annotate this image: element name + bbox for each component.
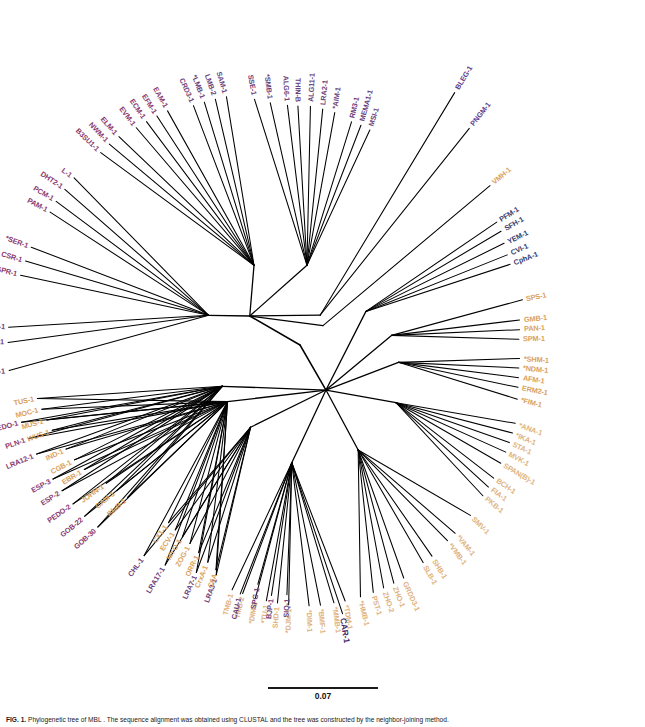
leaf-label-gmb1: GMB-1 — [523, 313, 547, 323]
leaf-label-alg61: ALG6-1 — [282, 76, 291, 102]
leaf-label-siq1: SIQ-1 — [282, 598, 290, 617]
scale-bar-line — [268, 687, 378, 689]
leaf-label-b3su21: B3SU2-1 — [0, 321, 5, 330]
leaf-label-alg111: ALG11-1 — [307, 73, 316, 102]
leaf-label-bjp1: BJP-1 — [265, 599, 275, 620]
leaf-label-spm1: SPM-1 — [523, 335, 545, 343]
leaf-label-bmf1: *BMF-1 — [317, 609, 326, 634]
scale-bar-value: 0.07 — [268, 691, 378, 701]
scale-bar: 0.07 — [268, 687, 378, 701]
leaf-label-thinb: THIN-B — [294, 78, 302, 102]
leaf-label-fez1: FEZ-1 — [0, 339, 4, 346]
leaf-label-pan1: PAN-1 — [523, 324, 544, 333]
leaf-label-am11: AM1-1 — [0, 367, 5, 376]
figure-caption-text: Phylogenetic tree of MBL . The sequence … — [26, 716, 449, 723]
phylogenetic-tree-figure: LRA3-1LRA7-1LRA17-1CHL-1GOB-30GOB-22PEDO… — [0, 0, 645, 727]
figure-caption: FIG. 1. Phylogenetic tree of MBL . The s… — [6, 716, 639, 727]
figure-number: FIG. 1. — [6, 716, 26, 723]
leaf-label-smb1: *SMB-1 — [263, 74, 273, 100]
leaf-label-shm1: *SHM-1 — [523, 355, 548, 364]
leaf-label-lra21: LRA2-1 — [319, 80, 329, 106]
leaf-label-dim1: *DIM-1 — [306, 610, 314, 632]
